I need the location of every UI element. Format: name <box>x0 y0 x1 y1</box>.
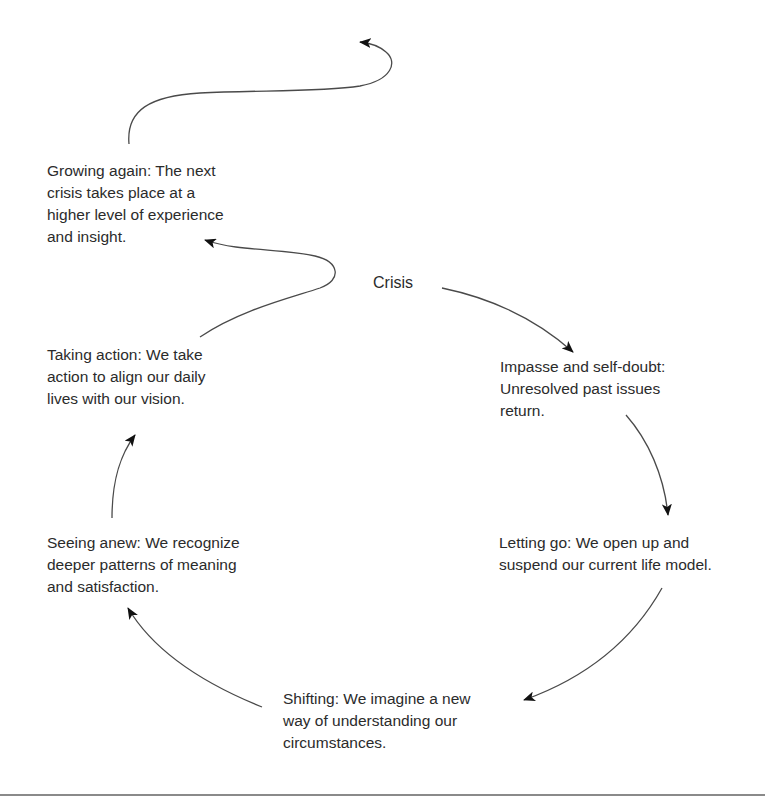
bottom-divider <box>0 794 765 796</box>
stage-line: crisis takes place at a <box>47 184 195 201</box>
stage-shifting: Shifting: We imagine a new way of unders… <box>283 688 471 754</box>
stage-impasse: Impasse and self-doubt: Unresolved past … <box>500 356 665 422</box>
arrow-shifting-to-seeing-anew <box>128 608 262 707</box>
crisis-label: Crisis <box>373 272 413 294</box>
stage-line: Shifting: We imagine a new <box>283 690 471 707</box>
stage-line: Unresolved past issues <box>500 380 660 397</box>
stage-letting-go: Letting go: We open up and suspend our c… <box>499 532 712 576</box>
stage-line: lives with our vision. <box>47 390 185 407</box>
arrow-letting-go-to-shifting <box>524 588 662 700</box>
stage-line: circumstances. <box>283 734 386 751</box>
cut-off-caption-fragment <box>50 0 70 2</box>
stage-line: suspend our current life model. <box>499 556 712 573</box>
stage-growing-again: Growing again: The next crisis takes pla… <box>47 160 224 248</box>
stage-line: Seeing anew: We recognize <box>47 534 240 551</box>
stage-taking-action: Taking action: We take action to align o… <box>47 344 206 410</box>
stage-seeing-anew: Seeing anew: We recognize deeper pattern… <box>47 532 240 598</box>
stage-line: and satisfaction. <box>47 578 159 595</box>
arrow-impasse-to-letting-go <box>626 415 668 515</box>
stage-line: Growing again: The next <box>47 162 216 179</box>
arrow-growing-to-next-cycle <box>129 42 392 144</box>
stage-line: Impasse and self-doubt: <box>500 358 665 375</box>
stage-line: higher level of experience <box>47 206 224 223</box>
stage-line: Letting go: We open up and <box>499 534 689 551</box>
spiral-growth-diagram: Crisis Growing again: The next crisis ta… <box>0 0 779 802</box>
stage-line: Taking action: We take <box>47 346 203 363</box>
stage-line: way of understanding our <box>283 712 457 729</box>
arrow-crisis-to-impasse <box>442 288 573 352</box>
stage-line: action to align our daily <box>47 368 206 385</box>
stage-line: return. <box>500 402 545 419</box>
stage-line: and insight. <box>47 228 126 245</box>
stage-line: deeper patterns of meaning <box>47 556 237 573</box>
arrow-seeing-anew-to-taking-action <box>112 435 135 518</box>
arrow-taking-action-to-growing-again <box>200 240 335 337</box>
